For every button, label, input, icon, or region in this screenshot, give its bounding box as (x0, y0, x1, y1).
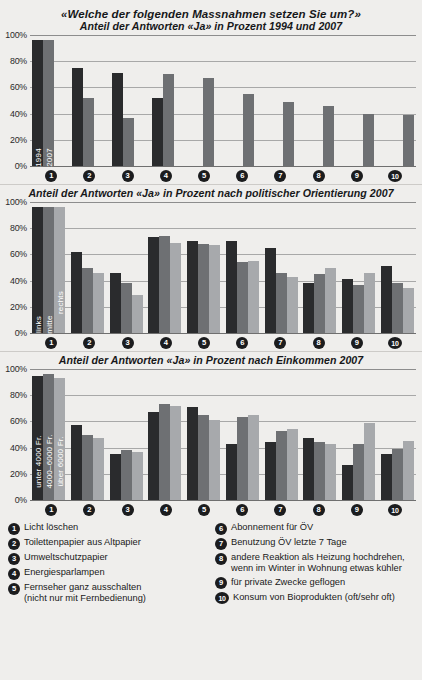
bar (159, 236, 170, 333)
bar: rechts (54, 207, 65, 333)
bar (323, 106, 334, 166)
bar-group (110, 369, 143, 500)
bar (237, 417, 248, 500)
bar-group (192, 35, 214, 166)
bar (342, 279, 353, 333)
bar-group (381, 202, 414, 333)
bar-group (71, 202, 104, 333)
legend-column-right: 6Abonnement für ÖV7Benutzung ÖV letzte 7… (215, 522, 414, 607)
bar (71, 252, 82, 333)
x-axis-marker-9: 9 (351, 337, 363, 349)
legend-marker-9: 9 (215, 577, 227, 589)
chart-separator (0, 184, 422, 185)
y-axis: 0%20%40%60%80%100% (0, 202, 30, 333)
chart-title: Anteil der Antworten «Ja» in Prozent nac… (0, 187, 422, 199)
x-axis-marker-3: 3 (122, 170, 134, 182)
chart-title: Anteil der Antworten «Ja» in Prozent 199… (0, 20, 422, 32)
bar-group (303, 202, 336, 333)
bar-group (303, 369, 336, 500)
bar: 4000–6000 Fr. (43, 374, 54, 500)
x-axis-slot: 10 (376, 504, 414, 516)
bar: unter 4000 Fr. (32, 376, 43, 500)
bar-group: unter 4000 Fr.4000–6000 Fr.über 6000 Fr. (32, 369, 65, 500)
y-axis-tick-label: 100% (5, 197, 27, 207)
bar-group (71, 369, 104, 500)
legend-label-line2: (nicht nur mit Fernbedienung) (24, 593, 146, 604)
bar-group (232, 35, 254, 166)
infographic-page: «Welche der folgenden Massnahmen setzen … (0, 0, 422, 680)
y-axis-tick-label: 20% (10, 302, 27, 312)
legend-marker-1: 1 (8, 523, 20, 535)
x-axis-slot: 2 (70, 170, 108, 182)
y-axis-tick-label: 0% (15, 161, 27, 171)
bar-group (148, 369, 181, 500)
legend-marker-6: 6 (215, 523, 227, 535)
y-axis-tick-label: 80% (10, 390, 27, 400)
series-inbar-label: mitte (44, 315, 53, 333)
series-inbar-label: rechts (55, 291, 64, 314)
bar (283, 102, 294, 166)
x-axis-slot: 6 (223, 170, 261, 182)
bar (364, 423, 375, 500)
x-axis-slot: 5 (185, 170, 223, 182)
bar (276, 273, 287, 333)
legend-marker-10: 10 (215, 592, 229, 604)
bar (314, 274, 325, 333)
x-axis-marker-6: 6 (236, 170, 248, 182)
bar (243, 94, 254, 166)
bar-groups: linksmitterechts (30, 202, 416, 333)
legend-item-10: 10Konsum von Bioprodukten (oft/sehr oft) (215, 592, 414, 605)
bar (342, 465, 353, 500)
bar (198, 415, 209, 500)
charts-container: Anteil der Antworten «Ja» in Prozent 199… (0, 20, 422, 516)
x-axis-marker-6: 6 (236, 504, 248, 516)
bar (265, 442, 276, 500)
legend-label: für private Zwecke geflogen (231, 577, 345, 588)
y-axis-tick-label: 20% (10, 469, 27, 479)
legend-item-4: 4Energiesparlampen (8, 567, 207, 580)
bar (392, 283, 403, 333)
y-axis-tick-label: 0% (15, 328, 27, 338)
x-axis-marker-8: 8 (313, 337, 325, 349)
x-axis-slot: 3 (108, 170, 146, 182)
x-axis-slot: 9 (338, 170, 376, 182)
x-axis-slot: 3 (108, 504, 146, 516)
series-inbar-label: unter 4000 Fr. (33, 435, 42, 488)
x-axis-marker-2: 2 (83, 170, 95, 182)
x-axis-slot: 7 (261, 504, 299, 516)
bar-group (265, 202, 298, 333)
bar (71, 425, 82, 500)
bar (198, 244, 209, 333)
bar (237, 262, 248, 333)
bar (276, 431, 287, 500)
x-axis-slot: 3 (108, 337, 146, 349)
bar-group: linksmitterechts (32, 202, 65, 333)
x-axis: 12345678910 (30, 334, 416, 349)
x-axis-slot: 4 (147, 504, 185, 516)
bar-group (226, 202, 259, 333)
x-axis-slot: 8 (299, 337, 337, 349)
y-axis-tick-label: 60% (10, 416, 27, 426)
y-axis-tick-label: 100% (5, 364, 27, 374)
legend-item-8: 8andere Reaktion als Heizung hochdrehen,… (215, 552, 414, 574)
y-axis-tick-label: 20% (10, 135, 27, 145)
bar-groups: unter 4000 Fr.4000–6000 Fr.über 6000 Fr. (30, 369, 416, 500)
x-axis-slot: 6 (223, 504, 261, 516)
y-axis: 0%20%40%60%80%100% (0, 35, 30, 166)
y-axis-tick-label: 40% (10, 109, 27, 119)
bar (121, 450, 132, 500)
bar-group (112, 35, 134, 166)
x-axis-slot: 2 (70, 504, 108, 516)
bar-group (392, 35, 414, 166)
series-inbar-label: über 6000 Fr. (55, 436, 64, 486)
bar-group (381, 369, 414, 500)
bar (152, 98, 163, 166)
x-axis-slot: 9 (338, 504, 376, 516)
bar (72, 68, 83, 166)
bar (248, 261, 259, 333)
bar (265, 248, 276, 333)
x-axis-slot: 5 (185, 337, 223, 349)
bar (403, 441, 414, 500)
x-axis-marker-4: 4 (160, 170, 172, 182)
x-axis-marker-10: 10 (388, 337, 402, 349)
